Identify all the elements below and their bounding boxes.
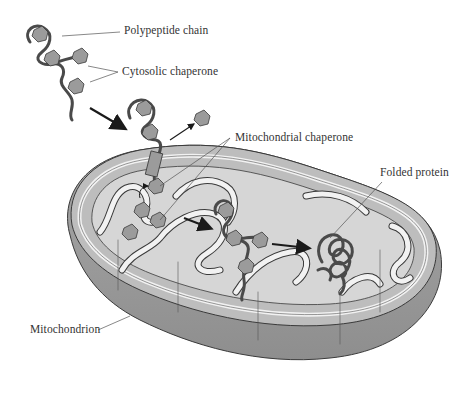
chaperone-shape [68, 78, 84, 94]
released-chaperone [194, 110, 210, 126]
label-cytosolic-chaperone: Cytosolic chaperone [122, 65, 218, 77]
polypeptide-chain-cytosol [28, 26, 88, 120]
label-folded-protein: Folded protein [380, 166, 449, 178]
mitochondrial-protein-import-diagram: Polypeptide chain Cytosolic chaperone Mi… [0, 0, 468, 401]
label-polypeptide-chain: Polypeptide chain [124, 24, 208, 36]
arrow-icon [170, 124, 194, 140]
diagram-graphic [0, 0, 468, 401]
label-mitochondrial-chaperone: Mitochondrial chaperone [235, 131, 353, 143]
arrow-icon [90, 108, 124, 128]
chaperone-shape [72, 48, 88, 64]
label-mitochondrion: Mitochondrion [30, 323, 100, 335]
